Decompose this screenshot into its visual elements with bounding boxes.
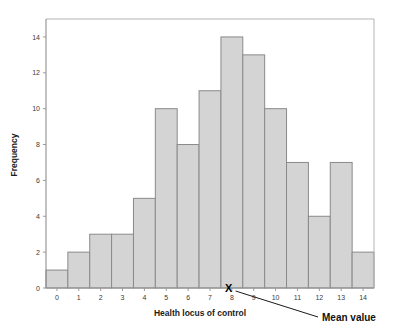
x-tick-label: 10 bbox=[272, 294, 280, 301]
bar bbox=[243, 55, 265, 288]
bar-rect-8 bbox=[221, 37, 243, 288]
bar bbox=[221, 37, 243, 288]
bar bbox=[177, 145, 199, 288]
y-axis: 02468101214 bbox=[32, 19, 46, 292]
bar-rect-4 bbox=[133, 198, 155, 288]
y-tick-label: 14 bbox=[32, 34, 40, 41]
bar-rect-3 bbox=[112, 234, 134, 288]
bar-rect-7 bbox=[199, 91, 221, 288]
x-axis-title: Health locus of control bbox=[154, 308, 246, 318]
y-tick-label: 4 bbox=[36, 213, 40, 220]
bar-rect-9 bbox=[243, 55, 265, 288]
x-axis-ticks: 01234567891011121314 bbox=[55, 288, 367, 301]
x-tick-label: 3 bbox=[121, 294, 125, 301]
y-tick-label: 6 bbox=[36, 177, 40, 184]
bar bbox=[287, 162, 309, 288]
bar-rect-12 bbox=[308, 216, 330, 288]
x-tick-label: 2 bbox=[99, 294, 103, 301]
x-tick-label: 6 bbox=[186, 294, 190, 301]
x-tick-label: 11 bbox=[294, 294, 301, 301]
mean-value-label: Mean value bbox=[322, 312, 376, 323]
x-tick-label: 5 bbox=[164, 294, 168, 301]
bar bbox=[112, 234, 134, 288]
y-axis-ticks: 02468101214 bbox=[32, 34, 46, 292]
y-axis-title: Frequency bbox=[9, 133, 19, 176]
bar-rect-5 bbox=[155, 109, 177, 288]
y-tick-label: 0 bbox=[36, 285, 40, 292]
bar-rect-10 bbox=[265, 109, 287, 288]
bar-rect-0 bbox=[46, 270, 68, 288]
x-tick-label: 14 bbox=[359, 294, 367, 301]
x-tick-label: 1 bbox=[77, 294, 81, 301]
bar-rect-11 bbox=[287, 162, 309, 288]
bar-rect-14 bbox=[352, 252, 374, 288]
x-axis: 01234567891011121314 bbox=[46, 288, 374, 301]
histogram-figure: 02468101214 01234567891011121314 Frequen… bbox=[0, 0, 397, 331]
x-tick-label: 8 bbox=[230, 294, 234, 301]
y-tick-label: 12 bbox=[32, 69, 40, 76]
y-tick-label: 10 bbox=[32, 105, 40, 112]
bar bbox=[330, 162, 352, 288]
bar bbox=[46, 270, 68, 288]
y-tick-label: 8 bbox=[36, 141, 40, 148]
bar-rect-6 bbox=[177, 145, 199, 288]
chart-canvas: 02468101214 01234567891011121314 Frequen… bbox=[0, 0, 397, 331]
bar bbox=[308, 216, 330, 288]
x-tick-label: 4 bbox=[142, 294, 146, 301]
bar bbox=[133, 198, 155, 288]
bar-rect-1 bbox=[68, 252, 90, 288]
bar bbox=[90, 234, 112, 288]
x-tick-label: 13 bbox=[337, 294, 345, 301]
mean-marker-x: X bbox=[225, 282, 233, 294]
x-tick-label: 12 bbox=[315, 294, 323, 301]
bar bbox=[352, 252, 374, 288]
x-tick-label: 7 bbox=[208, 294, 212, 301]
y-tick-label: 2 bbox=[36, 249, 40, 256]
bar bbox=[199, 91, 221, 288]
bar-rect-13 bbox=[330, 162, 352, 288]
bar-rect-2 bbox=[90, 234, 112, 288]
bar bbox=[68, 252, 90, 288]
bar bbox=[155, 109, 177, 288]
x-tick-label: 0 bbox=[55, 294, 59, 301]
bar bbox=[265, 109, 287, 288]
